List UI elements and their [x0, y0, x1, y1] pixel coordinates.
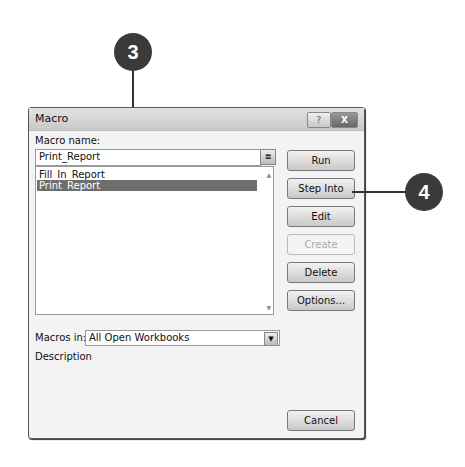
callout-4-leader-line [352, 191, 407, 193]
macro-dialog: Macro ? X Macro name: Print_Report ≣ Fil… [28, 107, 365, 439]
macros-in-select[interactable]: All Open Workbooks ▼ [85, 330, 280, 346]
collapse-dialog-icon[interactable]: ≣ [260, 149, 276, 165]
create-button[interactable]: Create [287, 234, 355, 255]
options-button[interactable]: Options... [287, 290, 355, 311]
title-bar: Macro ? X [29, 108, 364, 131]
edit-button[interactable]: Edit [287, 206, 355, 227]
cancel-button[interactable]: Cancel [287, 410, 355, 431]
macro-list[interactable]: Fill_In_Report Print_Report ▲ ▼ [35, 166, 274, 315]
delete-button[interactable]: Delete [287, 262, 355, 283]
macros-in-value: All Open Workbooks [89, 332, 189, 343]
close-button[interactable]: X [331, 112, 358, 128]
scroll-up-icon[interactable]: ▲ [266, 171, 271, 178]
step-into-button[interactable]: Step Into [287, 178, 355, 199]
callout-4: 4 [405, 173, 443, 211]
callout-3: 3 [114, 33, 152, 71]
macros-in-label: Macros in: [35, 332, 86, 343]
macro-name-input[interactable]: Print_Report [35, 149, 261, 166]
chevron-down-icon[interactable]: ▼ [264, 332, 278, 346]
help-button[interactable]: ? [307, 112, 331, 128]
run-button[interactable]: Run [287, 150, 355, 171]
macro-name-label: Macro name: [35, 135, 100, 146]
dialog-title: Macro [35, 112, 68, 125]
list-item-selected[interactable]: Print_Report [37, 180, 257, 191]
description-label: Description [35, 351, 92, 362]
list-item[interactable]: Fill_In_Report [37, 169, 257, 180]
scroll-down-icon[interactable]: ▼ [266, 304, 271, 311]
